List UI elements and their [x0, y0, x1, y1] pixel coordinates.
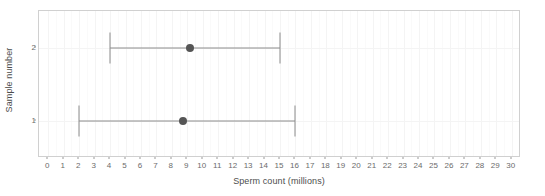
gridline-vertical-minor [118, 11, 119, 156]
x-tick-label: 26 [444, 161, 453, 170]
y-tick-mark [34, 46, 36, 47]
x-tick-label: 11 [213, 161, 221, 170]
gridline-vertical-major [388, 11, 389, 156]
gridline-vertical-major [156, 11, 157, 156]
gridline-vertical-minor [334, 11, 335, 156]
gridline-vertical-major [512, 11, 513, 156]
x-tick-mark [139, 157, 140, 159]
gridline-vertical-minor [489, 11, 490, 156]
plot-panel [38, 10, 520, 157]
x-tick-mark [418, 157, 419, 159]
x-tick-label: 17 [305, 161, 314, 170]
gridline-vertical-minor [350, 11, 351, 156]
x-tick-mark [340, 157, 341, 159]
x-tick-label: 5 [122, 161, 126, 170]
x-tick-mark [93, 157, 94, 159]
errorbar-cap-lower [79, 106, 80, 137]
gridline-vertical-minor [210, 11, 211, 156]
gridline-vertical-minor [257, 11, 258, 156]
x-tick-label: 15 [275, 161, 284, 170]
gridline-vertical-minor [195, 11, 196, 156]
gridline-vertical-major [95, 11, 96, 156]
gridline-vertical-major [326, 11, 327, 156]
x-tick-label: 6 [138, 161, 142, 170]
x-tick-mark [402, 157, 403, 159]
gridline-vertical-major [48, 11, 49, 156]
x-tick-label: 3 [91, 161, 95, 170]
gridline-vertical-major [265, 11, 266, 156]
x-tick-label: 28 [475, 161, 484, 170]
sperm-count-errorbar-chart: Sample number 12 01234567891011121314151… [0, 0, 545, 196]
gridline-vertical-minor [380, 11, 381, 156]
gridline-vertical-major [465, 11, 466, 156]
x-tick-mark [387, 157, 388, 159]
gridline-vertical-minor [164, 11, 165, 156]
gridline-vertical-minor [303, 11, 304, 156]
y-axis-tick-labels: 12 [18, 10, 36, 157]
x-tick-mark [294, 157, 295, 159]
x-tick-label: 14 [259, 161, 268, 170]
x-tick-mark [124, 157, 125, 159]
x-tick-label: 18 [321, 161, 330, 170]
x-tick-label: 8 [169, 161, 173, 170]
gridline-vertical-minor [241, 11, 242, 156]
x-tick-mark [263, 157, 264, 159]
gridline-vertical-major [218, 11, 219, 156]
gridline-vertical-minor [411, 11, 412, 156]
x-tick-mark [479, 157, 480, 159]
x-tick-label: 24 [414, 161, 423, 170]
x-tick-label: 25 [429, 161, 438, 170]
x-tick-mark [495, 157, 496, 159]
gridline-vertical-minor [442, 11, 443, 156]
gridline-vertical-major [342, 11, 343, 156]
x-tick-label: 23 [398, 161, 407, 170]
x-tick-label: 21 [367, 161, 376, 170]
gridline-vertical-major [450, 11, 451, 156]
gridline-vertical-minor [226, 11, 227, 156]
gridline-vertical-minor [288, 11, 289, 156]
x-tick-label: 12 [228, 161, 237, 170]
gridline-vertical-minor [56, 11, 57, 156]
x-tick-label: 7 [153, 161, 157, 170]
data-point-marker [186, 44, 194, 52]
x-tick-label: 13 [244, 161, 253, 170]
x-tick-mark [201, 157, 202, 159]
gridline-vertical-minor [458, 11, 459, 156]
gridline-vertical-major [496, 11, 497, 156]
gridline-vertical-minor [396, 11, 397, 156]
x-tick-mark [371, 157, 372, 159]
x-tick-mark [155, 157, 156, 159]
x-tick-mark [78, 157, 79, 159]
gridline-vertical-minor [427, 11, 428, 156]
gridline-vertical-major [141, 11, 142, 156]
x-tick-label: 9 [184, 161, 188, 170]
x-tick-mark [170, 157, 171, 159]
y-axis-title: Sample number [0, 0, 18, 160]
gridline-vertical-minor [102, 11, 103, 156]
x-tick-mark [464, 157, 465, 159]
y-axis-title-text: Sample number [4, 48, 14, 113]
gridline-vertical-major [203, 11, 204, 156]
x-tick-mark [217, 157, 218, 159]
gridline-vertical-major [64, 11, 65, 156]
gridline-vertical-major [126, 11, 127, 156]
gridline-vertical-minor [87, 11, 88, 156]
gridline-vertical-minor [71, 11, 72, 156]
x-tick-label: 4 [107, 161, 111, 170]
x-tick-mark [356, 157, 357, 159]
gridline-vertical-minor [149, 11, 150, 156]
x-tick-label: 16 [290, 161, 299, 170]
errorbar-cap-lower [110, 32, 111, 63]
x-tick-label: 29 [491, 161, 500, 170]
errorbar-cap-upper [295, 106, 296, 137]
x-tick-mark [232, 157, 233, 159]
gridline-vertical-minor [365, 11, 366, 156]
x-tick-mark [279, 157, 280, 159]
gridline-vertical-major [187, 11, 188, 156]
x-tick-label: 19 [336, 161, 345, 170]
x-tick-mark [62, 157, 63, 159]
x-tick-mark [309, 157, 310, 159]
x-tick-label: 27 [460, 161, 469, 170]
gridline-vertical-minor [133, 11, 134, 156]
errorbar-cap-upper [280, 32, 281, 63]
